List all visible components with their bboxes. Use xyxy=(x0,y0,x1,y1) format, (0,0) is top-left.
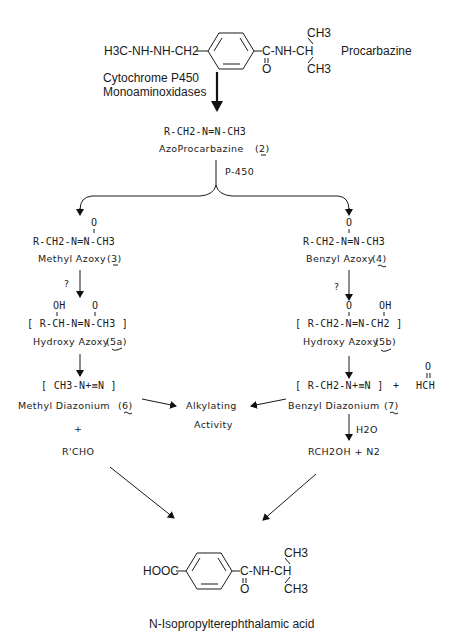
hydroxy-azoxy-a-formula: [ R-CH-N=N-CH3 ] xyxy=(27,318,128,329)
methyl-azoxy-name: Methyl Azoxy xyxy=(38,253,106,264)
hydroxy-azoxy-b-formula: [ R-CH2-N=N-CH2 ] xyxy=(295,318,402,329)
benzyl-diazonium-number: (7) xyxy=(384,400,399,411)
benzene-ring-icon xyxy=(208,33,254,69)
question-mark-left: ? xyxy=(64,278,69,289)
final-product-name: N-Isopropylterephthalamic acid xyxy=(149,617,314,631)
procarbazine-structure: H3C-NH-NH-CH2 C-NH-CH O CH3 CH3 Procarba… xyxy=(104,26,412,76)
p450-label: P-450 xyxy=(225,166,254,177)
benzyl-diazonium-plus: + xyxy=(393,380,399,391)
rcho-label: R'CHO xyxy=(62,446,94,457)
methyl-azoxy-number: (3) xyxy=(107,253,122,264)
hydroxy-azoxy-a-oh: OH xyxy=(53,300,66,311)
final-product-structure: HOOC C-NH-CH O CH3 CH3 xyxy=(143,546,308,596)
enzyme-label-mao: Monoaminoxidases xyxy=(103,85,206,99)
azo-procarbazine-formula: R-CH2-N=N-CH3 xyxy=(164,126,246,137)
methyl-azoxy-o: O xyxy=(91,217,97,228)
hydroxy-azoxy-a-name: Hydroxy Azoxy xyxy=(33,336,109,347)
procarbazine-ch3-top: CH3 xyxy=(307,26,331,40)
methyl-azoxy-formula: R-CH2-N=N-CH3 xyxy=(33,236,115,247)
methyl-diazonium-name: Methyl Diazonium xyxy=(18,400,110,411)
methyl-diazonium-formula: [ CH3-N+≡N ] xyxy=(41,380,117,391)
procarbazine-carbonyl-o: O xyxy=(262,62,271,76)
alkylating-label-line1: Alkylating xyxy=(186,400,237,411)
hydroxy-azoxy-b-o: O xyxy=(346,300,352,311)
procarbazine-left-group: H3C-NH-NH-CH2 xyxy=(104,44,199,58)
enzyme-label-p450: Cytochrome P450 xyxy=(103,71,199,85)
azo-procarbazine-number: (2) xyxy=(255,143,270,154)
arrow-to-alkylating-icon xyxy=(142,399,176,406)
methyl-diazonium-number: (6) xyxy=(118,400,133,411)
benzyl-diazonium-formula: [ R-CH2-N+≡N ] xyxy=(295,380,384,391)
final-product-ch3-bottom: CH3 xyxy=(284,582,308,596)
benzyl-azoxy-formula: R-CH2-N=N-CH3 xyxy=(303,236,385,247)
procarbazine-ch3-bottom: CH3 xyxy=(307,62,331,76)
final-product-right-group: C-NH-CH xyxy=(240,564,291,578)
final-product-left-group: HOOC xyxy=(143,564,179,578)
split-left-branch xyxy=(80,185,216,210)
hydroxy-azoxy-b-name: Hydroxy Azoxy xyxy=(303,336,379,347)
hydroxy-azoxy-a-o: O xyxy=(92,300,98,311)
benzyl-azoxy-number: (4) xyxy=(372,253,387,264)
rch2oh-label: RCH2OH + N2 xyxy=(308,446,380,457)
benzyl-azoxy-o: O xyxy=(346,217,352,228)
water-label: H2O xyxy=(356,424,378,435)
hydroxy-azoxy-b-number: (5b) xyxy=(375,336,396,347)
alkylating-label-line2: Activity xyxy=(194,419,233,430)
final-product-ch3-top: CH3 xyxy=(284,546,308,560)
azo-procarbazine-name: AzoProcarbazine xyxy=(159,143,244,154)
formaldehyde-o: O xyxy=(425,361,431,372)
formaldehyde: HCH xyxy=(416,380,435,391)
arrow-to-alkylating-icon xyxy=(251,399,286,406)
procarbazine-name: Procarbazine xyxy=(341,44,412,58)
plus-left: + xyxy=(74,423,82,434)
split-right-branch xyxy=(216,185,349,210)
hydroxy-azoxy-b-oh: OH xyxy=(379,300,392,311)
benzene-ring-icon xyxy=(186,553,232,589)
question-mark-right: ? xyxy=(334,281,339,292)
arrow-converge-right-icon xyxy=(263,474,316,520)
final-product-carbonyl-o: O xyxy=(240,582,249,596)
hydroxy-azoxy-a-number: (5a) xyxy=(106,336,127,347)
procarbazine-right-group: C-NH-CH xyxy=(262,44,313,58)
arrow-converge-left-icon xyxy=(110,467,174,518)
benzyl-azoxy-name: Benzyl Azoxy xyxy=(306,253,374,264)
pathway-diagram: H3C-NH-NH-CH2 C-NH-CH O CH3 CH3 Procarba… xyxy=(0,0,464,632)
benzyl-diazonium-name: Benzyl Diazonium xyxy=(288,400,380,411)
